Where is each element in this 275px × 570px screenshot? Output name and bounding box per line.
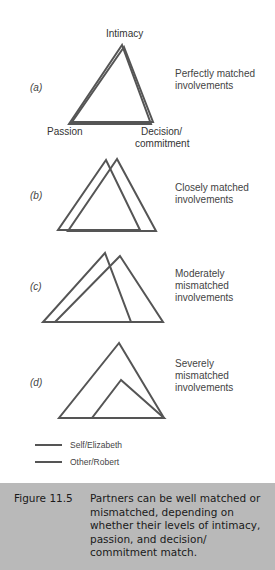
legend-line-other (35, 461, 62, 463)
vertex-label-decision: Decision/ (141, 126, 182, 138)
legend-other: Other/Robert (35, 457, 119, 467)
legend-line-self (35, 444, 62, 446)
caption-text: Partners can be well matched or mismatch… (90, 492, 270, 560)
panel-d-triangles (59, 343, 164, 418)
panel-id-b: (b) (30, 190, 42, 201)
figure-caption: Figure 11.5 Partners can be well matched… (0, 483, 275, 570)
caption-label: Figure 11.5 (14, 492, 73, 504)
panel-desc-a: Perfectly matched involvements (175, 68, 270, 92)
self-triangle-b (58, 160, 140, 230)
legend-label-other: Other/Robert (70, 457, 119, 467)
panel-desc-d: Severely mismatched involvements (175, 358, 270, 394)
legend-self: Self/Elizabeth (35, 440, 122, 450)
panel-desc-c: Moderately mismatched involvements (175, 268, 270, 304)
vertex-label-commitment: commitment (135, 138, 189, 150)
self-triangle-d (59, 343, 164, 418)
panel-desc-b: Closely matched involvements (175, 182, 270, 206)
panel-id-a: (a) (30, 82, 42, 93)
triangular-love-figure: Intimacy Passion Decision/ commitment (a… (0, 0, 275, 483)
panel-c-triangles (43, 253, 163, 322)
self-triangle-c (43, 253, 131, 322)
panel-id-c: (c) (30, 281, 42, 292)
panel-id-d: (d) (30, 377, 42, 388)
legend-label-self: Self/Elizabeth (70, 440, 122, 450)
panel-a-triangles (69, 45, 153, 124)
vertex-label-passion: Passion (47, 126, 83, 138)
panel-b-triangles (58, 159, 156, 231)
other-triangle-c (55, 256, 163, 322)
vertex-label-intimacy: Intimacy (106, 28, 143, 40)
